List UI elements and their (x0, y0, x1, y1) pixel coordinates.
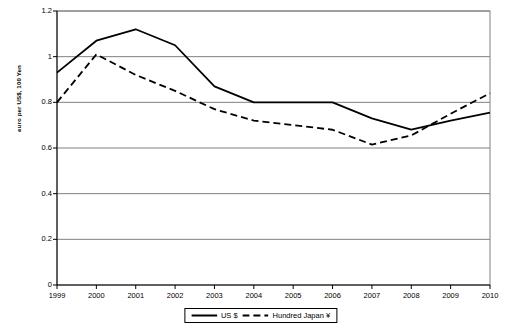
x-tick-label: 2010 (470, 291, 510, 300)
x-tick-label: 2007 (352, 291, 392, 300)
x-tick-label: 2006 (313, 291, 353, 300)
line-chart: euro per US$, 100 Yen 00.20.40.60.811.2 … (0, 0, 521, 333)
x-tick-label: 2004 (234, 291, 274, 300)
legend-label: Hundred Japan ¥ (273, 311, 331, 320)
x-tick-label: 1999 (37, 291, 77, 300)
chart-legend: US $Hundred Japan ¥ (184, 308, 337, 323)
legend-item[interactable]: US $ (191, 311, 238, 320)
x-tick-label: 2002 (155, 291, 195, 300)
legend-item[interactable]: Hundred Japan ¥ (243, 311, 331, 320)
legend-dashed-line-icon (243, 312, 269, 319)
x-tick-label: 2008 (391, 291, 431, 300)
x-tick-label: 2001 (116, 291, 156, 300)
legend-label: US $ (221, 311, 238, 320)
plot-area (0, 0, 521, 333)
x-tick-label: 2000 (76, 291, 116, 300)
legend-solid-line-icon (191, 312, 217, 319)
x-tick-label: 2003 (194, 291, 234, 300)
x-tick-label: 2009 (431, 291, 471, 300)
x-tick-label: 2005 (273, 291, 313, 300)
